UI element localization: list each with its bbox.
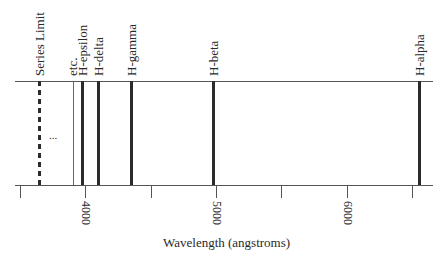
label-h-epsilon: H-epsilon <box>76 25 89 76</box>
axis-tick <box>412 185 413 198</box>
label-h-gamma: H-gamma <box>125 24 138 76</box>
h-epsilon-line <box>81 81 84 185</box>
h-gamma-line <box>130 81 133 185</box>
tick-label-6000: 6000 <box>342 201 354 225</box>
axis-title: Wavelength (angstroms) <box>163 235 290 251</box>
ellipsis: ... <box>49 130 57 141</box>
axis-tick <box>281 185 282 198</box>
tick-label-4000: 4000 <box>80 201 92 225</box>
h-beta-line <box>212 81 215 185</box>
label-h-alpha: H-alpha <box>413 34 426 76</box>
axis-tick <box>20 185 21 198</box>
axis-tick-4000 <box>85 185 86 198</box>
etc-line <box>73 81 74 185</box>
tick-label-5000: 5000 <box>211 201 223 225</box>
top-boundary-line <box>15 81 433 82</box>
axis-line <box>15 185 433 186</box>
axis-tick-6000 <box>347 185 348 198</box>
label-h-delta: H-delta <box>92 37 105 76</box>
axis-tick <box>151 185 152 198</box>
spectrum-diagram: 4000 5000 6000 ... Series Limit etc. H-e… <box>0 0 444 263</box>
label-series-limit: Series Limit <box>33 12 46 76</box>
h-alpha-line <box>418 81 421 185</box>
axis-tick-5000 <box>216 185 217 198</box>
label-h-beta: H-beta <box>207 41 220 76</box>
h-delta-line <box>97 81 100 185</box>
series-limit-line <box>38 81 41 185</box>
